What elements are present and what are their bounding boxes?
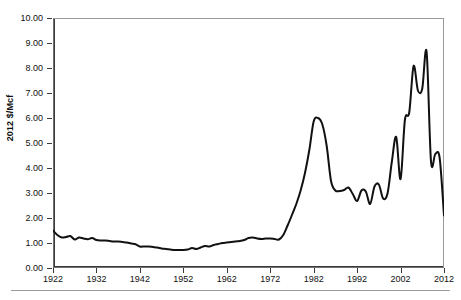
chart-figure: 2012 $/Mcf 10.009.008.007.006.005.004.00…: [0, 0, 461, 300]
x-tick-mark: [53, 268, 54, 273]
x-tick-label: 1992: [347, 275, 367, 284]
x-tick-label: 2002: [391, 275, 411, 284]
x-axis-tick-group: 1922193219421952196219721982199220022012: [0, 0, 461, 300]
x-tick-label: 1922: [43, 275, 63, 284]
x-tick-mark: [96, 268, 97, 273]
x-tick-mark: [140, 268, 141, 273]
x-tick-mark: [444, 268, 445, 273]
x-tick-label: 1972: [260, 275, 280, 284]
x-tick-mark: [183, 268, 184, 273]
x-tick-label: 2012: [434, 275, 454, 284]
x-tick-label: 1952: [173, 275, 193, 284]
x-tick-label: 1982: [304, 275, 324, 284]
x-tick-label: 1962: [217, 275, 237, 284]
x-tick-label: 1932: [86, 275, 106, 284]
x-tick-mark: [270, 268, 271, 273]
x-tick-mark: [227, 268, 228, 273]
x-tick-mark: [314, 268, 315, 273]
x-tick-label: 1942: [130, 275, 150, 284]
x-tick-mark: [401, 268, 402, 273]
footer-divider: [11, 290, 450, 291]
x-tick-mark: [357, 268, 358, 273]
